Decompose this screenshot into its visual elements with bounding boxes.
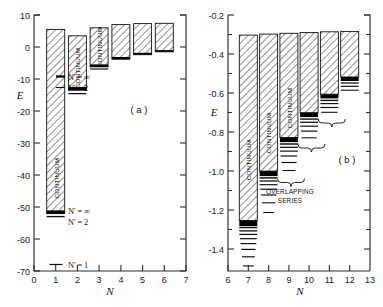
xtick-a-6: 6 [162, 275, 167, 285]
panel-a-x-axis-label: N [105, 285, 114, 297]
dense-levels-N5 [134, 53, 152, 55]
continuum-label-N3: CONTINUUM [96, 27, 103, 68]
xtick-a-5: 5 [140, 275, 145, 285]
continuum-label-N2: CONTINUUM [74, 48, 81, 89]
continuum-band-N4 [112, 25, 130, 60]
key-N1-one: N' = 1 [68, 261, 88, 270]
ytick-a-2: -10 [17, 75, 30, 85]
ytick-b-2: -0.6 [208, 89, 224, 99]
key-N2-two: N' = 2 [68, 84, 88, 93]
xtick-b-0: 6 [225, 275, 230, 285]
continuum-label-N7: CONTINUUM [245, 140, 252, 181]
xtick-b-4: 10 [304, 275, 314, 285]
overlapping-series-line1: OVERLAPPING [266, 188, 314, 195]
continuum-label-N9: CONTINUUM [286, 88, 293, 129]
overlapping-series-line2: SERIES [278, 197, 303, 204]
xtick-b-6: 12 [345, 275, 355, 285]
dense-levels-N6 [155, 50, 173, 52]
continuum-label-N1: CONTINUUM [53, 158, 60, 199]
xtick-a-3: 3 [97, 275, 102, 285]
xtick-b-1: 7 [246, 275, 251, 285]
continuum-label-N8: CONTINUUM [265, 113, 272, 154]
energy-level-figure: 10 0 -10 -20 -30 -40 -50 -60 -70 E 0 1 2… [0, 0, 383, 307]
ytick-a-8: -70 [17, 267, 30, 277]
xtick-a-1: 1 [53, 275, 58, 285]
ytick-a-1: 0 [25, 43, 30, 53]
dense-levels-N3 [90, 64, 108, 67]
ytick-a-7: -60 [17, 235, 30, 245]
key-N2-inf: N' = ∞ [68, 73, 90, 82]
continuum-band-N10 [300, 33, 318, 113]
xtick-a-7: 7 [183, 275, 188, 285]
xtick-b-2: 8 [266, 275, 271, 285]
ytick-b-4: -1.0 [208, 167, 224, 177]
ytick-b-0: -0.2 [208, 11, 224, 21]
dense-levels-N4 [112, 57, 130, 59]
ytick-a-0: 10 [20, 11, 30, 21]
ytick-b-5: -1.2 [208, 206, 224, 216]
panel-a-y-axis-label: E [16, 89, 24, 101]
xtick-b-5: 11 [325, 275, 334, 285]
ytick-b-3: -0.8 [208, 128, 224, 138]
ytick-b-6: -1.4 [208, 245, 224, 255]
xtick-a-4: 4 [118, 275, 123, 285]
panel-b-x-axis-label: N [295, 285, 304, 297]
panel-a-tag: ( a ) [131, 104, 148, 115]
key-N1-inf: N' = ∞ [68, 207, 90, 216]
xtick-b-3: 9 [286, 275, 291, 285]
continuum-band-N12 [341, 31, 359, 77]
ytick-a-4: -30 [17, 139, 30, 149]
ytick-a-5: -40 [17, 171, 30, 181]
key-N1-two: N' = 2 [68, 218, 88, 227]
ytick-a-3: -20 [17, 107, 30, 117]
continuum-band-N5 [134, 24, 152, 55]
continuum-band-N6 [155, 23, 173, 52]
xtick-a-2: 2 [75, 275, 80, 285]
dense-levels-N1 [47, 210, 65, 213]
xtick-a-0: 0 [31, 275, 36, 285]
ytick-b-1: -0.4 [208, 50, 224, 60]
panel-b-y-axis-label: E [210, 106, 218, 118]
continuum-band-N7 [239, 35, 257, 221]
panel-b-tag: ( b ) [339, 154, 356, 165]
continuum-band-N11 [320, 32, 338, 94]
xtick-b-7: 13 [365, 275, 375, 285]
ytick-a-6: -50 [17, 203, 30, 213]
figure-root: 10 0 -10 -20 -30 -40 -50 -60 -70 E 0 1 2… [0, 0, 383, 307]
